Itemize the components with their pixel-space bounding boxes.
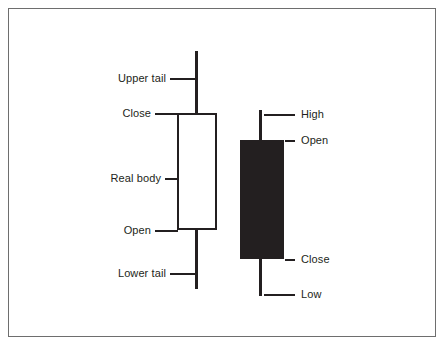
leader-line-low bbox=[264, 294, 295, 296]
leader-line-open-right bbox=[285, 140, 295, 142]
label-low: Low bbox=[301, 288, 411, 300]
label-open-right: Open bbox=[301, 134, 411, 146]
leader-line-close-left bbox=[155, 113, 178, 115]
label-close-right: Close bbox=[301, 253, 411, 265]
candlestick-anatomy-figure: Upper tail Close Real body Open Lower ta… bbox=[0, 0, 444, 351]
label-upper-tail: Upper tail bbox=[40, 72, 166, 84]
label-close-left: Close bbox=[40, 107, 151, 119]
diagram-canvas: Upper tail Close Real body Open Lower ta… bbox=[0, 0, 444, 351]
leader-line-lower-tail bbox=[170, 273, 196, 275]
label-real-body: Real body bbox=[40, 172, 161, 184]
label-high: High bbox=[301, 108, 411, 120]
label-lower-tail: Lower tail bbox=[40, 267, 166, 279]
hollow-candle-lower-wick bbox=[195, 228, 198, 289]
filled-candle-lower-wick bbox=[259, 257, 262, 296]
leader-line-high bbox=[264, 114, 295, 116]
filled-candle-upper-wick bbox=[259, 110, 262, 142]
leader-line-upper-tail bbox=[170, 78, 196, 80]
filled-candle-real-body bbox=[240, 140, 284, 259]
leader-line-close-right bbox=[285, 259, 295, 261]
hollow-candle-upper-wick bbox=[195, 51, 198, 115]
leader-line-open-left bbox=[155, 230, 178, 232]
label-open-left: Open bbox=[40, 224, 151, 236]
leader-line-real-body bbox=[165, 178, 178, 180]
hollow-candle-real-body bbox=[177, 113, 217, 230]
